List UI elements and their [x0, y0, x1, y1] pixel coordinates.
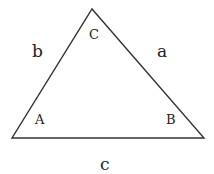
side-label-b: b: [32, 41, 43, 61]
vertex-label-a: A: [34, 112, 45, 127]
side-label-c: c: [100, 154, 110, 174]
triangle-diagram: A B C b a c: [0, 0, 214, 174]
vertex-label-b: B: [166, 112, 176, 127]
side-label-a: a: [157, 41, 167, 61]
vertex-label-c: C: [89, 27, 99, 42]
